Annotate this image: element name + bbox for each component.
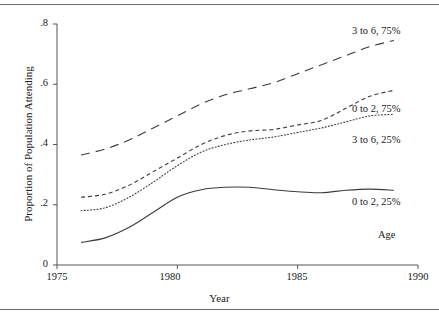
x-tick-label-3: 1990 [393,271,439,282]
series-label-3to6-75: 3 to 6, 75% [352,25,400,36]
series-line-2 [81,114,394,210]
legend-title: Age [378,229,396,240]
series-line-3 [81,187,394,242]
x-tick-label-0: 1975 [32,271,82,282]
x-axis-title: Year [0,292,439,304]
y-tick-label-4: .8 [18,17,48,28]
y-tick-label-0: 0 [18,258,48,269]
y-tick-label-2: .4 [18,137,48,148]
series-line-0 [81,41,394,155]
chart-plot-area [0,0,439,317]
y-tick-marks [53,24,57,265]
series-label-3to6-25: 3 to 6, 25% [352,134,400,145]
y-tick-label-3: .6 [18,77,48,88]
x-tick-label-2: 1985 [272,271,322,282]
series-label-0to2-75: 0 to 2, 75% [352,103,400,114]
series-label-0to2-25: 0 to 2, 25% [352,196,400,207]
x-tick-marks [57,265,418,269]
figure-container: Proportion of Population Attending Year … [0,0,439,317]
y-tick-label-1: .2 [18,197,48,208]
series-line-1 [81,90,394,197]
series-paths [81,41,394,243]
x-tick-label-1: 1980 [145,271,195,282]
